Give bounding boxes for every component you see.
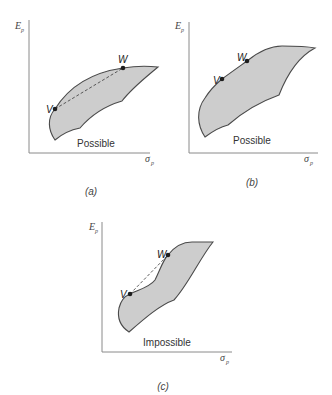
feasible-set-diagrams: V W Possible E p σ p (a) V W Possible E … xyxy=(0,0,332,395)
point-v xyxy=(128,292,133,297)
point-w-label: W xyxy=(157,249,168,260)
point-w-label: W xyxy=(237,52,248,63)
y-axis-subscript: p xyxy=(180,27,184,33)
caption: (b) xyxy=(246,177,258,188)
region-label: Possible xyxy=(77,138,115,149)
point-w xyxy=(121,66,126,71)
panel-a: V W Possible E p σ p (a) xyxy=(14,20,158,197)
x-axis-subscript: p xyxy=(225,359,229,365)
point-w-label: W xyxy=(118,54,129,65)
region-label: Possible xyxy=(233,135,271,146)
x-axis-subscript: p xyxy=(150,160,154,166)
caption: (c) xyxy=(157,381,169,392)
feasible-region xyxy=(49,66,158,140)
point-v xyxy=(220,77,225,82)
panel-c: V W Impossible E p σ p (c) xyxy=(88,221,232,392)
panel-b: V W Possible E p σ p (b) xyxy=(174,20,318,188)
point-v xyxy=(53,107,58,112)
x-axis-subscript: p xyxy=(309,160,313,166)
y-axis-subscript: p xyxy=(94,228,98,234)
caption: (a) xyxy=(85,186,97,197)
y-axis-subscript: p xyxy=(20,27,24,33)
region-label: Impossible xyxy=(143,337,191,348)
feasible-region xyxy=(199,46,315,137)
